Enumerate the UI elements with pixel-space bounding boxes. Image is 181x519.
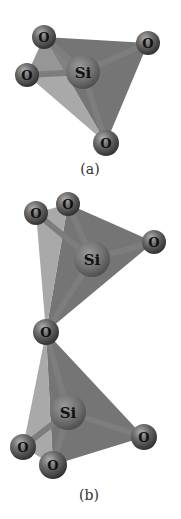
panel-b-linked-tetrahedra: O Si O O O Si O O O: [10, 192, 166, 479]
o-label: O: [40, 325, 51, 340]
o-label: O: [17, 440, 28, 455]
o-label: O: [38, 30, 49, 45]
o-label: O: [47, 458, 58, 473]
silicate-tetrahedra-figure: Si O O O O (a) O: [0, 0, 181, 519]
panel-a-tetrahedron: Si O O O O: [15, 25, 160, 156]
o-label: O: [138, 430, 149, 445]
o-label: O: [100, 136, 111, 151]
o-label: O: [142, 36, 153, 51]
caption-b: (b): [79, 487, 99, 503]
si-label: Si: [84, 251, 101, 269]
o-label: O: [21, 68, 32, 83]
o-label: O: [148, 235, 159, 250]
caption-a: (a): [80, 161, 99, 177]
o-label: O: [30, 206, 41, 221]
si-label: Si: [60, 404, 77, 422]
si-label: Si: [75, 64, 92, 82]
o-label: O: [62, 197, 73, 212]
